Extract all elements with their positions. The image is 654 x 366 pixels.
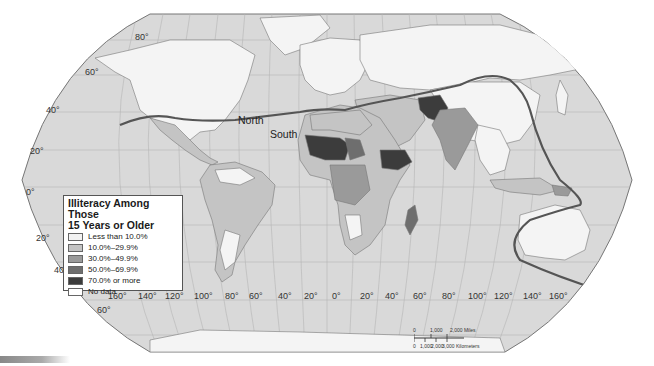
legend-label: 30.0%–49.9% bbox=[88, 254, 138, 263]
legend-label: 70.0% or more bbox=[88, 276, 140, 285]
legend-swatch bbox=[68, 244, 83, 252]
longitude-label: 120° bbox=[494, 291, 513, 301]
longitude-label: 20° bbox=[360, 291, 374, 301]
north-label: North bbox=[238, 114, 264, 126]
legend-label: Less than 10.0% bbox=[88, 232, 148, 241]
legend-title-line1: Illiteracy Among Those bbox=[68, 198, 178, 220]
legend-swatch bbox=[68, 255, 83, 263]
latitude-label: 60° bbox=[97, 305, 111, 315]
legend-item: 30.0%–49.9% bbox=[68, 254, 178, 265]
legend-item: No data bbox=[68, 287, 178, 298]
longitude-label: 20° bbox=[304, 291, 318, 301]
latitude-label: 20° bbox=[30, 146, 44, 156]
longitude-label: 80° bbox=[442, 291, 456, 301]
legend-swatch bbox=[68, 266, 83, 274]
legend: Illiteracy Among Those 15 Years or Older… bbox=[63, 195, 183, 291]
legend-title-line2: 15 Years or Older bbox=[68, 220, 178, 231]
scale-bar: 0 1,000 2,000 Miles 0 1,000 2,000 3,000 … bbox=[410, 327, 510, 351]
south-label: South bbox=[270, 128, 297, 140]
decorative-bar bbox=[0, 356, 70, 363]
longitude-label: 140° bbox=[523, 291, 542, 301]
longitude-label: 60° bbox=[413, 291, 427, 301]
legend-swatch bbox=[68, 277, 83, 285]
longitude-label: 0° bbox=[332, 291, 341, 301]
latitude-label: 80° bbox=[135, 32, 149, 42]
legend-item: 10.0%–29.9% bbox=[68, 243, 178, 254]
longitude-label: 80° bbox=[225, 291, 239, 301]
legend-swatch bbox=[68, 233, 83, 241]
latitude-label: 20° bbox=[36, 233, 50, 243]
longitude-label: 40° bbox=[385, 291, 399, 301]
longitude-label: 160° bbox=[549, 291, 568, 301]
longitude-label: 100° bbox=[468, 291, 487, 301]
latitude-label: 0° bbox=[26, 187, 35, 197]
legend-item: 50.0%–69.9% bbox=[68, 265, 178, 276]
longitude-label: 60° bbox=[249, 291, 263, 301]
scale-km-0: 0 bbox=[413, 343, 416, 349]
legend-label: No data bbox=[88, 287, 116, 296]
scale-km-3000: 3,000 Kilometers bbox=[442, 343, 480, 349]
latitude-label: 40° bbox=[46, 105, 60, 115]
longitude-label: 40° bbox=[278, 291, 292, 301]
legend-label: 50.0%–69.9% bbox=[88, 265, 138, 274]
legend-item: 70.0% or more bbox=[68, 276, 178, 287]
scale-ruler bbox=[414, 333, 484, 343]
legend-label: 10.0%–29.9% bbox=[88, 243, 138, 252]
legend-item: Less than 10.0% bbox=[68, 232, 178, 243]
latitude-label: 60° bbox=[85, 67, 99, 77]
legend-swatch bbox=[68, 288, 83, 296]
longitude-label: 100° bbox=[194, 291, 213, 301]
